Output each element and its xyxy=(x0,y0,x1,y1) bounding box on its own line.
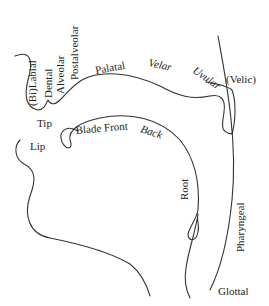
label-palatal: Palatal xyxy=(94,59,126,76)
label-blade-front: Blade Front xyxy=(75,119,128,136)
label-uvular: Uvular xyxy=(191,64,224,92)
label-alveolar: Alveolar xyxy=(54,55,66,94)
label-glottal: Glottal xyxy=(218,285,249,297)
label-dental: Dental xyxy=(42,69,54,98)
label-tip: Tip xyxy=(37,117,52,129)
label-root: Root xyxy=(178,179,190,200)
label-velar: Velar xyxy=(148,56,174,73)
label-lip: Lip xyxy=(30,140,46,152)
label-pharyngeal: Pharyngeal xyxy=(234,203,246,252)
label-postalveolar: Postalveolar xyxy=(68,25,80,80)
label-bilabial: (Bi)Labial xyxy=(26,60,39,106)
vocal-tract-diagram: (Bi)Labial Dental Alveolar Postalveolar … xyxy=(0,0,269,306)
tongue-outline xyxy=(61,116,199,298)
label-velic: (Velic) xyxy=(226,73,256,86)
lower-lip-chin-outline xyxy=(16,140,150,296)
